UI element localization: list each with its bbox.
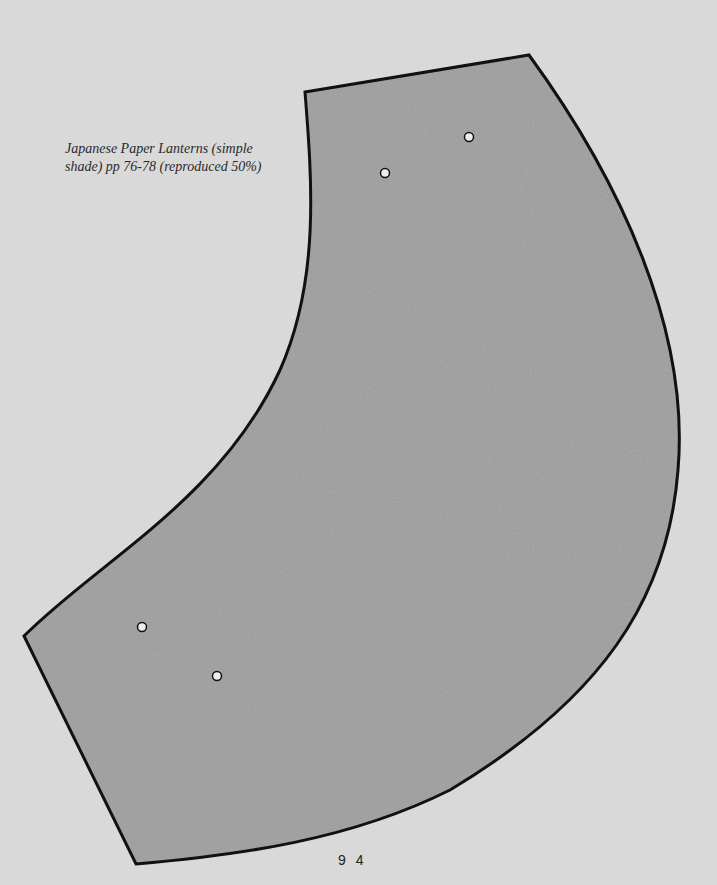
caption-line-1: Japanese Paper Lanterns (simple xyxy=(65,140,295,158)
punch-hole-2 xyxy=(381,169,390,178)
punch-hole-3 xyxy=(138,623,147,632)
caption-line-2: shade) pp 76-78 (reproduced 50%) xyxy=(65,158,295,176)
pattern-piece xyxy=(0,0,717,885)
page-number: 9 4 xyxy=(338,852,366,868)
caption: Japanese Paper Lanterns (simple shade) p… xyxy=(65,140,295,176)
punch-hole-4 xyxy=(213,672,222,681)
punch-hole-1 xyxy=(465,133,474,142)
